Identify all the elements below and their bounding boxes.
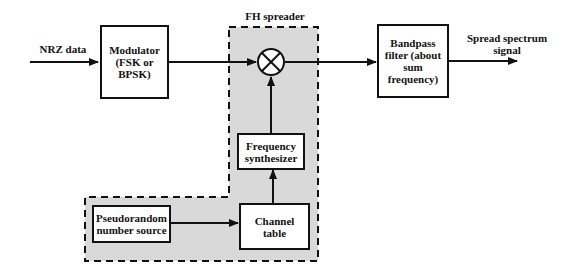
bandpass-filter-block: Bandpass filter (about sum frequency) bbox=[377, 24, 449, 98]
modulator-block: Modulator (FSK or BPSK) bbox=[100, 25, 169, 99]
pseudorandom-source-block: Pseudorandom number source bbox=[92, 205, 171, 243]
channel-table-block: Channel table bbox=[239, 203, 310, 250]
freq-synth-label: Frequency synthesizer bbox=[245, 140, 298, 164]
channel-table-label: Channel table bbox=[255, 215, 295, 239]
mixer-icon bbox=[258, 49, 284, 75]
bandpass-label: Bandpass filter (about sum frequency) bbox=[385, 37, 441, 85]
frequency-synthesizer-block: Frequency synthesizer bbox=[237, 133, 305, 170]
nrz-data-label: NRZ data bbox=[36, 43, 90, 55]
modulator-label: Modulator (FSK or BPSK) bbox=[109, 44, 160, 80]
spread-spectrum-label: Spread spectrum signal bbox=[452, 32, 562, 56]
fh-spreader-title: FH spreader bbox=[240, 10, 310, 22]
pn-source-label: Pseudorandom number source bbox=[96, 212, 167, 236]
